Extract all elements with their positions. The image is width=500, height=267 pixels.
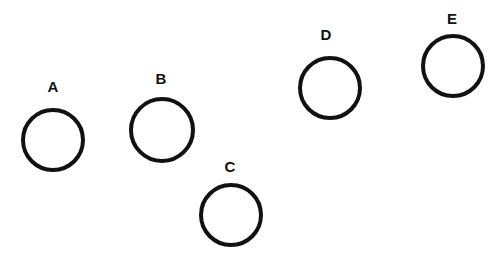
circle-label-e: E bbox=[447, 10, 457, 27]
circle-label-c: C bbox=[225, 158, 236, 175]
circle-e bbox=[421, 34, 485, 98]
circle-d bbox=[298, 56, 362, 120]
circle-c bbox=[199, 183, 263, 247]
circle-label-a: A bbox=[48, 78, 59, 95]
circle-label-d: D bbox=[321, 26, 332, 43]
circle-b bbox=[129, 97, 195, 163]
circle-label-b: B bbox=[156, 70, 167, 87]
circle-a bbox=[21, 108, 85, 172]
